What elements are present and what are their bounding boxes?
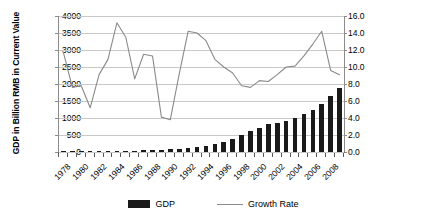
chart-container: GDP in Billion RMB in Current Value Grow…: [0, 0, 427, 224]
legend-label-growth-rate: Growth Rate: [248, 199, 299, 209]
legend-item-gdp: GDP: [128, 199, 175, 209]
legend-swatch-bar-icon: [128, 200, 150, 208]
legend-label-gdp: GDP: [155, 199, 175, 209]
chart-legend: GDP Growth Rate: [0, 199, 427, 209]
x-axis-labels: 1978198019821984198619881990199219941996…: [0, 0, 427, 224]
legend-swatch-line-icon: [217, 204, 243, 205]
legend-item-growth-rate: Growth Rate: [217, 199, 299, 209]
